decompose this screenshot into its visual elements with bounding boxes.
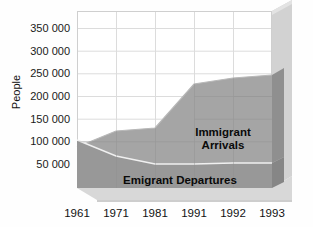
x-tick-label-1981: 1981 — [135, 207, 175, 220]
series-label-emigrant-departures: Emigrant Departures — [100, 174, 260, 187]
series-label-immigrant-arrivals: Immigrant Arrivals — [175, 126, 271, 152]
y-axis-title: People — [10, 62, 22, 122]
y-tick-label-300000: 300 000 — [4, 45, 70, 57]
x-tick-label-1992: 1992 — [213, 207, 253, 220]
plot-floor-front-strip — [97, 200, 292, 202]
x-tick-label-1993: 1993 — [252, 207, 292, 220]
x-tick-label-1991: 1991 — [174, 207, 214, 220]
x-tick-label-1971: 1971 — [96, 207, 136, 220]
y-tick-label-50000: 50 000 — [4, 158, 70, 170]
y-tick-label-100000: 100 000 — [4, 135, 70, 147]
series-label-immigrant-line2: Arrivals — [175, 139, 271, 152]
series-label-immigrant-line1: Immigrant — [175, 126, 271, 139]
series-end-cap-immigrant — [272, 68, 284, 163]
y-tick-label-350000: 350 000 — [4, 22, 70, 34]
immigration-emigration-area-chart: 350 000 300 000 250 000 200 000 150 000 … — [0, 0, 313, 227]
x-tick-label-1961: 1961 — [57, 207, 97, 220]
